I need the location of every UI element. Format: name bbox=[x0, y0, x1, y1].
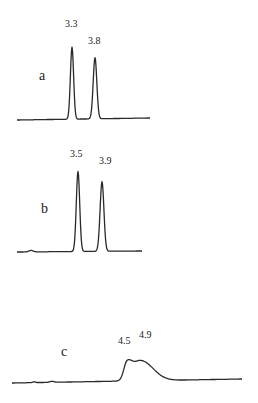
trace-a-peak-2-label: 3.8 bbox=[88, 35, 101, 46]
trace-a-peak-1-label: 3.3 bbox=[65, 18, 78, 29]
trace-a-group: a 3.3 3.8 bbox=[17, 18, 150, 120]
trace-b-peak-2-label: 3.9 bbox=[99, 155, 112, 166]
trace-c-peak-2-label: 4.9 bbox=[139, 329, 152, 340]
trace-c-peak-1-label: 4.5 bbox=[118, 335, 131, 346]
trace-b-label: b bbox=[41, 201, 48, 216]
trace-b-peak-1-label: 3.5 bbox=[70, 148, 83, 159]
trace-b-group: b 3.5 3.9 bbox=[17, 148, 142, 252]
trace-b-line bbox=[17, 172, 142, 253]
trace-c-label: c bbox=[61, 344, 67, 359]
trace-a-line bbox=[17, 47, 150, 120]
trace-c-group: c 4.5 4.9 bbox=[12, 329, 242, 383]
trace-a-label: a bbox=[39, 68, 46, 83]
chromatogram-chart: a 3.3 3.8 b 3.5 3.9 c 4.5 4.9 bbox=[0, 0, 258, 403]
trace-c-line bbox=[12, 360, 242, 383]
